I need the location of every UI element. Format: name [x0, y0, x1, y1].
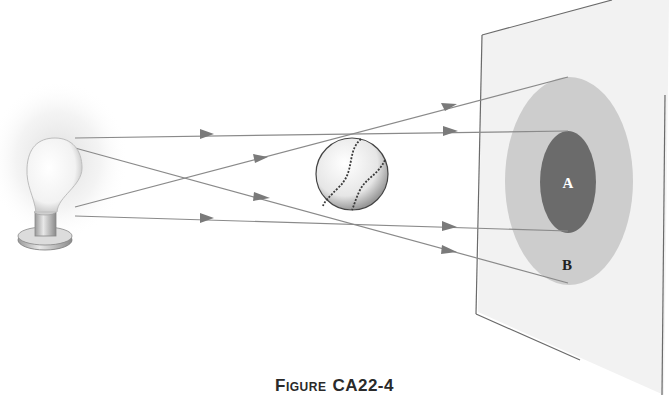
- penumbra-label: B: [562, 257, 572, 273]
- shadow-diagram: A B: [0, 0, 669, 395]
- figure-caption-number: CA22-4: [332, 376, 394, 395]
- figure-caption: FigureCA22-4: [0, 376, 669, 395]
- figure-caption-prefix: Figure: [275, 376, 326, 395]
- baseball: [316, 138, 388, 210]
- umbra-label: A: [563, 175, 574, 191]
